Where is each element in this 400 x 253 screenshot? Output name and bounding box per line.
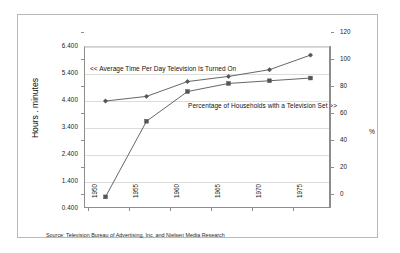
y-axis-tick-label: 1.400 [62,177,78,184]
x-axis-tick [252,208,253,211]
data-point-marker [227,82,231,86]
y-axis-right-line [330,46,331,208]
y-axis-labels: 0.4001.4002.4003.4004.4005.4006.400 [35,39,82,215]
y-axis-tick [81,194,84,195]
y-axis-tick-label: 3.400 [62,123,78,130]
y-axis-right-tick [331,194,334,195]
y-axis-tick-label: 2.400 [62,150,78,157]
y-axis-tick-label: 5.400 [62,69,78,76]
y-axis-right-tick-label: 120 [340,28,351,35]
x-axis-tick [88,208,89,211]
annotation-tv-time: << Average Time Per Day Television Is Tu… [90,65,236,72]
y-axis-right-tick-label: 100 [340,55,351,62]
y-axis-tick [81,113,84,114]
x-axis-tick [129,208,130,211]
data-point-marker [268,79,272,83]
data-point-marker [144,94,148,98]
series-line [106,55,311,101]
x-axis-tick [170,208,171,211]
x-axis-tick [293,208,294,211]
y-axis-right-tick [331,167,334,168]
y-axis-tick [81,167,84,168]
data-point-marker [145,119,149,123]
x-axis-tick [211,208,212,211]
series-line [106,78,311,197]
data-point-marker [186,90,190,94]
y-axis-tick-label: 6.400 [62,42,78,49]
y-axis-tick [81,86,84,87]
y-axis-right-tick-label: 40 [340,136,347,143]
annotation-households: Percentage of Households with a Televisi… [188,102,337,109]
data-point-marker [308,53,312,57]
y-axis-tick-label: 0.400 [62,204,78,211]
data-point-marker [267,67,271,71]
y-axis-right-tick [331,113,334,114]
y-axis-right-tick [331,140,334,141]
y-axis-right-tick [331,32,334,33]
y-axis-right-tick-label: 60 [340,109,347,116]
y-axis-tick [81,32,84,33]
y-axis-right-tick-label: 0 [340,190,344,197]
y-axis-right-tick [331,86,334,87]
data-point-marker [309,76,313,80]
y-axis-right-tick-label: 20 [340,163,347,170]
data-point-marker [226,74,230,78]
data-point-marker [103,99,107,103]
source-note: Source: Television Bureau of Advertising… [46,232,225,238]
chart-frame: Hours . minutes 0.4001.4002.4003.4004.40… [17,14,378,238]
data-point-marker [104,195,108,199]
y-axis-tick [81,59,84,60]
y-axis-right-tick [331,59,334,60]
chart-page: Hours . minutes 0.4001.4002.4003.4004.40… [0,0,400,253]
y-axis-tick [81,140,84,141]
percent-axis-unit: % [369,128,375,135]
data-point-marker [185,79,189,83]
y-axis-tick-label: 4.400 [62,96,78,103]
y-axis-right-tick-label: 80 [340,82,347,89]
